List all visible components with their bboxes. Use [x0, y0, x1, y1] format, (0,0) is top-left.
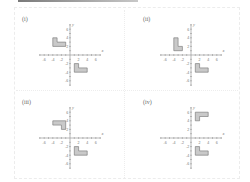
header-rule — [18, 0, 138, 2]
y-tick-label: 2 — [187, 128, 189, 132]
y-tick-label: 6 — [66, 111, 68, 115]
x-tick-label: 6 — [216, 141, 218, 145]
object-shape — [53, 38, 66, 47]
y-tick-label: 2 — [187, 45, 189, 49]
y-tick-label: -4 — [65, 154, 68, 158]
x-tick-label: 4 — [86, 141, 88, 145]
y-tick-label: -6 — [65, 162, 68, 166]
image-shape — [195, 64, 208, 73]
x-tick-label: -6 — [164, 141, 167, 145]
x-tick-label: -4 — [172, 141, 175, 145]
y-tick-label: -2 — [186, 145, 189, 149]
x-axis-label: x — [100, 48, 103, 53]
x-tick-label: -4 — [172, 58, 175, 62]
y-tick-label: 2 — [66, 45, 68, 49]
y-tick-label: 4 — [187, 36, 189, 40]
x-tick-label: -6 — [164, 58, 167, 62]
object-shape — [53, 121, 66, 130]
y-axis-label: y — [192, 105, 195, 110]
x-tick-label: -6 — [43, 141, 46, 145]
x-tick-label: 4 — [86, 58, 88, 62]
image-shape — [74, 147, 87, 156]
y-tick-label: -4 — [186, 71, 189, 75]
graph-panel-iii: (iii) -6-4-2246642-2-4-6xy — [22, 97, 132, 179]
x-axis-label: x — [221, 131, 224, 136]
x-tick-label: -2 — [60, 141, 63, 145]
x-tick-label: -4 — [51, 141, 54, 145]
x-tick-label: 2 — [199, 58, 201, 62]
x-tick-label: 4 — [207, 58, 209, 62]
y-axis-label: y — [71, 22, 74, 27]
x-tick-label: 6 — [216, 58, 218, 62]
y-tick-label: 4 — [66, 119, 68, 123]
graph-panel-iv: (iv) -6-4-2246642-2-4-6xy — [143, 97, 250, 179]
y-tick-label: -2 — [186, 62, 189, 66]
x-axis-label: x — [221, 48, 224, 53]
object-shape — [195, 112, 208, 121]
x-tick-label: 6 — [95, 141, 97, 145]
x-tick-label: 2 — [78, 58, 80, 62]
y-tick-label: -2 — [65, 62, 68, 66]
x-tick-label: -6 — [43, 58, 46, 62]
image-shape — [195, 147, 208, 156]
x-tick-label: 4 — [207, 141, 209, 145]
y-tick-label: -4 — [65, 71, 68, 75]
y-tick-label: 6 — [187, 111, 189, 115]
coordinate-grid: -6-4-2246642-2-4-6xy — [143, 97, 250, 179]
x-tick-label: 2 — [199, 141, 201, 145]
y-axis-label: y — [192, 22, 195, 27]
x-tick-label: -2 — [181, 141, 184, 145]
coordinate-grid: -6-4-2246642-2-4-6xy — [22, 97, 132, 179]
x-tick-label: -4 — [51, 58, 54, 62]
y-tick-label: -6 — [65, 79, 68, 83]
x-tick-label: 2 — [78, 141, 80, 145]
y-tick-label: 6 — [66, 28, 68, 32]
y-tick-label: -2 — [65, 145, 68, 149]
image-shape — [74, 64, 87, 73]
object-shape — [174, 38, 183, 51]
y-tick-label: -4 — [186, 154, 189, 158]
graph-panel-ii: (ii) -6-4-2246642-2-4-6xy — [143, 14, 250, 96]
x-tick-label: -2 — [181, 58, 184, 62]
y-tick-label: -6 — [186, 162, 189, 166]
y-tick-label: 4 — [66, 36, 68, 40]
x-axis-label: x — [100, 131, 103, 136]
y-tick-label: 4 — [187, 119, 189, 123]
y-axis-label: y — [71, 105, 74, 110]
graph-panel-i: (i) -6-4-2246642-2-4-6xy — [22, 14, 132, 96]
y-tick-label: -6 — [186, 79, 189, 83]
y-tick-label: 6 — [187, 28, 189, 32]
coordinate-grid: -6-4-2246642-2-4-6xy — [22, 14, 132, 96]
coordinate-grid: -6-4-2246642-2-4-6xy — [143, 14, 250, 96]
x-tick-label: 6 — [95, 58, 97, 62]
y-tick-label: 2 — [66, 128, 68, 132]
x-tick-label: -2 — [60, 58, 63, 62]
